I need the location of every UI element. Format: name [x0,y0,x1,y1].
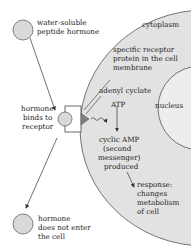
label-response-3: metabolism [137,198,179,207]
label-notenter-2: does not enter [38,223,91,232]
label-cytoplasm: cytoplasm [142,20,179,29]
label-response-4: of cell [137,207,160,216]
label-atp: ATP [110,100,126,109]
arrow-to-receptor [30,38,55,110]
label-camp-4: produced [104,162,139,171]
label-hormone-top-2: peptide hormone [37,27,99,36]
label-response-1: response: [137,180,172,189]
hormone-diagram: water-soluble peptide hormone cytoplasm … [0,0,191,252]
label-adenyl-cyclate: adenyl cyclate [99,86,151,95]
label-camp-2: (second [103,144,132,153]
hormone-molecule-top [13,20,33,40]
label-receptor-2: protein in the cell [113,54,179,63]
hormone-molecule-bottom [13,214,33,234]
label-notenter-3: the cell [38,232,66,241]
label-response-2: changes [137,189,167,198]
label-receptor-1: specific receptor [113,45,175,54]
label-nucleus: nucleus [155,101,183,110]
label-binds-2: binds to [23,113,52,122]
label-receptor-3: membrane [113,63,152,72]
label-binds-1: hormone [21,104,53,113]
arrow-to-exit [26,138,57,208]
bound-hormone [58,112,72,126]
label-camp-1: cyclic AMP [99,135,140,144]
label-hormone-top: water-soluble [37,18,87,27]
label-notenter-1: hormone [38,214,70,223]
label-binds-3: receptor [22,122,54,131]
label-camp-3: messenger) [98,153,141,162]
